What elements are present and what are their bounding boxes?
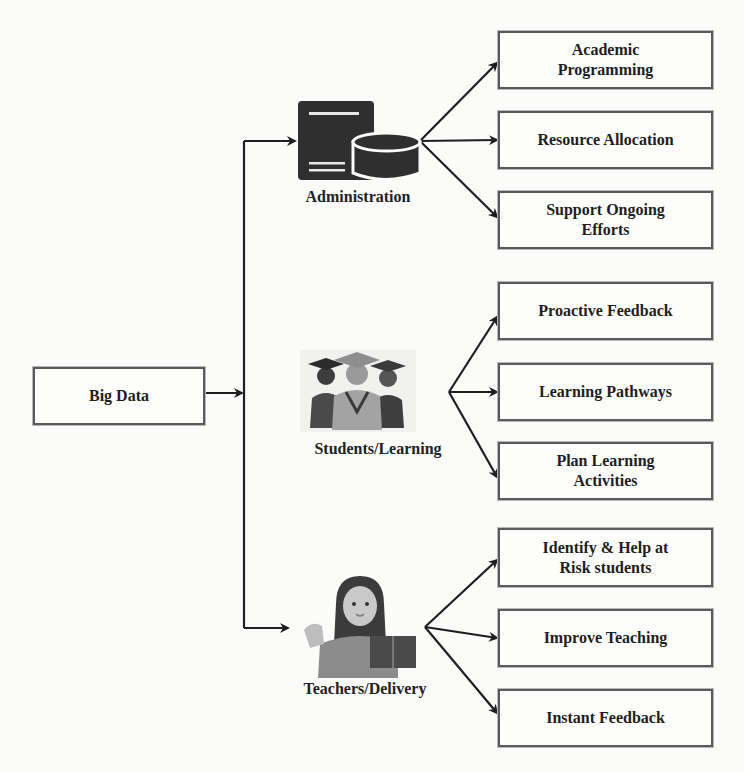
output-learning-pathways: Learning Pathways xyxy=(498,363,713,421)
output-academic-programming: Academic Programming xyxy=(498,31,713,89)
output-label: Support Ongoing Efforts xyxy=(531,200,681,240)
output-plan-learning-activities: Plan Learning Activities xyxy=(498,442,713,500)
graduates-icon xyxy=(300,350,416,432)
output-proactive-feedback: Proactive Feedback xyxy=(498,282,713,340)
output-identify-help-at-risk: Identify & Help at Risk students xyxy=(498,528,713,587)
output-resource-allocation: Resource Allocation xyxy=(498,111,713,169)
teacher-icon xyxy=(298,574,422,680)
output-label: Improve Teaching xyxy=(544,628,668,648)
output-support-ongoing-efforts: Support Ongoing Efforts xyxy=(498,191,713,249)
output-label: Plan Learning Activities xyxy=(541,451,671,491)
teachers-delivery-label: Teachers/Delivery xyxy=(276,680,454,698)
output-label: Instant Feedback xyxy=(546,708,665,728)
big-data-label: Big Data xyxy=(89,386,149,406)
output-label: Academic Programming xyxy=(546,40,666,80)
output-label: Resource Allocation xyxy=(537,130,673,150)
students-learning-label: Students/Learning xyxy=(286,440,470,458)
output-label: Proactive Feedback xyxy=(538,301,672,321)
output-improve-teaching: Improve Teaching xyxy=(498,609,713,667)
output-label: Learning Pathways xyxy=(539,382,672,402)
big-data-box: Big Data xyxy=(33,367,205,425)
output-label: Identify & Help at Risk students xyxy=(531,538,681,578)
output-instant-feedback: Instant Feedback xyxy=(498,689,713,747)
server-database-icon xyxy=(297,100,423,184)
administration-label: Administration xyxy=(282,188,434,206)
